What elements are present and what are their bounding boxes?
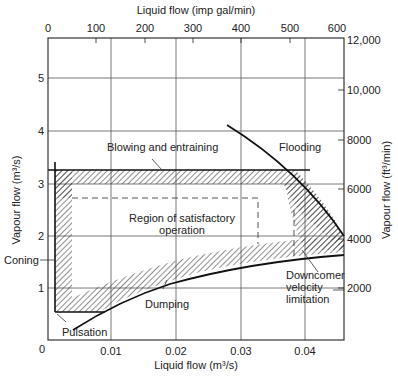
region-label-line1: Region of satisfactory	[129, 212, 235, 224]
svg-text:2000: 2000	[347, 282, 371, 294]
region-label-line2: operation	[159, 224, 205, 236]
svg-text:200: 200	[136, 22, 154, 34]
right-tick-labels: 12,000 10,000 8000 6000 4000 2000	[347, 34, 381, 294]
flooding-label: Flooding	[279, 141, 321, 153]
right-axis-label: Vapour flow (ft³/min)	[380, 141, 392, 239]
svg-text:0: 0	[39, 343, 45, 355]
svg-text:0: 0	[45, 22, 51, 34]
bottom-tick-labels: 0 0.01 0.02 0.03 0.04	[39, 343, 316, 357]
svg-text:5: 5	[38, 72, 44, 84]
top-tick-labels: 0 100 200 300 400 500 600	[45, 22, 346, 34]
svg-text:12,000: 12,000	[347, 34, 381, 46]
svg-text:500: 500	[281, 22, 299, 34]
blowing-label: Blowing and entraining	[107, 141, 218, 153]
svg-text:0.01: 0.01	[100, 345, 121, 357]
downcomer-label-line1: Downcomer	[286, 269, 345, 281]
svg-text:4: 4	[38, 125, 44, 137]
svg-text:2: 2	[38, 230, 44, 242]
pulsation-label: Pulsation	[62, 326, 107, 338]
svg-text:8000: 8000	[347, 134, 371, 146]
svg-text:0.04: 0.04	[294, 345, 315, 357]
sieve-tray-performance-diagram: Liquid flow (imp gal/min) Liquid flow (m…	[0, 0, 398, 380]
svg-text:300: 300	[184, 22, 202, 34]
svg-text:400: 400	[232, 22, 250, 34]
bottom-axis-label: Liquid flow (m³/s)	[154, 359, 238, 371]
top-axis-label: Liquid flow (imp gal/min)	[137, 4, 256, 16]
svg-text:6000: 6000	[347, 183, 371, 195]
downcomer-label-line2: velocity	[286, 281, 323, 293]
dumping-label: Dumping	[145, 298, 189, 310]
svg-text:0.02: 0.02	[165, 345, 186, 357]
svg-text:1: 1	[38, 282, 44, 294]
downcomer-label-line3: limitation	[286, 293, 329, 305]
svg-text:4000: 4000	[347, 233, 371, 245]
svg-text:600: 600	[328, 22, 346, 34]
coning-label: Coning	[4, 254, 39, 266]
svg-text:0.03: 0.03	[230, 345, 251, 357]
svg-text:3: 3	[38, 178, 44, 190]
svg-text:100: 100	[87, 22, 105, 34]
svg-text:10,000: 10,000	[347, 84, 381, 96]
left-axis-label: Vapour flow (m³/s)	[10, 155, 22, 244]
